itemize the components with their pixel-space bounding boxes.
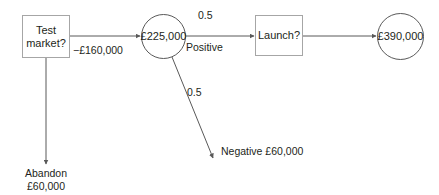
node-test-market-label: Test market? xyxy=(26,24,66,49)
edge-label-negative-probability: 0.5 xyxy=(187,86,202,98)
edge-label-positive-branch: Positive xyxy=(186,41,223,53)
node-launch-label: Launch? xyxy=(258,29,300,42)
node-outcome-390000-label: £390,000 xyxy=(378,30,424,43)
node-launch[interactable]: Launch? xyxy=(255,15,303,56)
node-outcome-390000[interactable]: £390,000 xyxy=(377,13,424,60)
terminal-abandon: Abandon £60,000 xyxy=(6,167,86,192)
node-chance-225000-label: £225,000 xyxy=(141,30,187,43)
edge-label-positive-probability: 0.5 xyxy=(198,9,213,21)
decision-tree-diagram: Test market? £225,000 Launch? £390,000 −… xyxy=(0,0,439,195)
edge-chance-to-negative xyxy=(172,57,213,158)
edge-label-test-cost: −£160,000 xyxy=(73,44,123,56)
node-chance-225000[interactable]: £225,000 xyxy=(141,14,186,59)
node-test-market[interactable]: Test market? xyxy=(22,15,70,58)
edge-label-negative-branch: Negative £60,000 xyxy=(221,145,303,157)
